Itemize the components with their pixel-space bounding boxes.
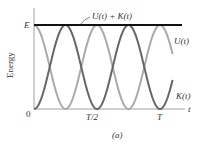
caption: (a) <box>112 130 123 140</box>
e-tick: E <box>23 20 30 30</box>
sum-label: U(t) + K(t) <box>92 11 132 21</box>
half-tick: T/2 <box>86 112 99 122</box>
full-tick: T <box>157 112 163 122</box>
sum-leader <box>80 17 90 25</box>
zero-tick: 0 <box>26 109 31 119</box>
energy-chart: U(t) + K(t) U(t) K(t) E 0 T/2 T t Energy… <box>0 0 205 145</box>
energy-axis-label: Energy <box>5 52 15 78</box>
k-label: K(t) <box>175 91 191 101</box>
u-label: U(t) <box>174 36 189 46</box>
t-axis-label: t <box>188 104 191 114</box>
